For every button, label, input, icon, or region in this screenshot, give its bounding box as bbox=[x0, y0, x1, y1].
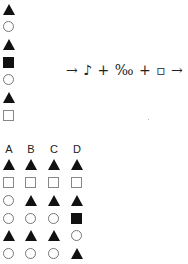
circle-icon bbox=[48, 213, 59, 224]
triangle-icon bbox=[48, 195, 60, 206]
triangle-icon bbox=[3, 92, 15, 103]
triangle-icon bbox=[25, 159, 37, 170]
triangle-icon bbox=[71, 195, 83, 206]
filled-square-icon bbox=[71, 213, 82, 224]
circle-icon bbox=[25, 213, 36, 224]
triangle-icon bbox=[3, 159, 15, 170]
transformation-formula: → ♪ + ‰ + ▫ → bbox=[66, 62, 183, 78]
circle-icon bbox=[3, 195, 14, 206]
filled-square-icon bbox=[3, 57, 14, 68]
circle-icon bbox=[3, 21, 14, 32]
circle-icon bbox=[3, 74, 14, 85]
open-square-icon bbox=[25, 177, 36, 188]
triangle-icon bbox=[71, 248, 83, 259]
option-label-a[interactable]: A bbox=[3, 143, 15, 155]
triangle-icon bbox=[25, 230, 37, 241]
circle-icon bbox=[3, 213, 14, 224]
circle-icon bbox=[3, 248, 14, 259]
open-square-icon bbox=[3, 177, 14, 188]
stray-dot bbox=[148, 119, 149, 120]
option-label-d[interactable]: D bbox=[71, 143, 83, 155]
circle-icon bbox=[48, 248, 59, 259]
circle-icon bbox=[25, 248, 36, 259]
triangle-icon bbox=[25, 195, 37, 206]
triangle-icon bbox=[48, 230, 60, 241]
triangle-icon bbox=[3, 230, 15, 241]
triangle-icon bbox=[3, 4, 15, 15]
option-label-c[interactable]: C bbox=[48, 143, 60, 155]
triangle-icon bbox=[3, 39, 15, 50]
triangle-icon bbox=[48, 159, 60, 170]
circle-icon bbox=[71, 230, 82, 241]
open-square-icon bbox=[3, 110, 14, 121]
open-square-icon bbox=[48, 177, 59, 188]
open-square-icon bbox=[71, 177, 82, 188]
triangle-icon bbox=[71, 159, 83, 170]
option-label-b[interactable]: B bbox=[25, 143, 37, 155]
